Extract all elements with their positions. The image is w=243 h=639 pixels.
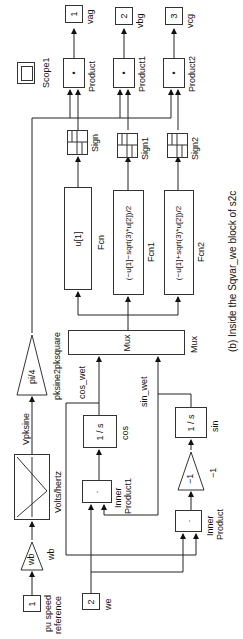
sign2-icon [168,134,187,157]
figure-caption: (b) Inside the Sqvar_we block of s2c [228,191,238,352]
inner-product1-label-line2: Product1 [124,478,133,514]
product2-label: Product2 [188,56,197,92]
cos-integrator-block[interactable]: 1 / s [83,415,117,448]
cos-integrator-label: cos [121,426,130,440]
sin-wet-signal-label: sin_wet [140,376,149,407]
sign-block[interactable] [67,130,88,155]
fcn2-label: Fcn2 [197,242,206,262]
volts-hertz-label: Volts/hertz [54,471,63,513]
fcn2-block[interactable]: (−u[1]+sqrt(3)*u[2])/2 [164,190,194,295]
fcn1-label: Fcn1 [147,242,156,262]
sign1-label: Sign1 [141,137,150,160]
inport-1-number: 1 [28,601,37,606]
product-label: Product [88,61,97,92]
inport-1[interactable]: 1 [23,595,41,612]
outport-1[interactable]: 1 [65,5,83,23]
outport-2[interactable]: 2 [115,7,133,25]
wb-gain-value: wb [27,553,36,565]
inner-product-label-line1: Inner [206,515,215,536]
sign1-block[interactable] [117,133,138,158]
product1-symbol: • [120,71,129,74]
outport-2-number: 2 [120,13,129,18]
inport-2[interactable]: 2 [82,593,100,610]
inner-product-symbol: · [184,520,193,523]
outport-2-label: vbg [136,13,145,28]
sin-integrator-label: sin [211,420,220,432]
cos-integrator-num: 1 [95,435,105,440]
fcn-label: Fcn [97,235,106,250]
product2-symbol: • [170,71,179,74]
fcn1-block[interactable]: (−u[1]−sqrt(3)*u[2])/2 [113,190,144,295]
inner-product-label-line2: Product [216,509,225,540]
inner-product1-symbol: · [93,490,102,493]
outport-3-label: vcg [186,14,195,28]
sin-integrator-num: 1 [186,426,196,431]
product-symbol: • [70,71,79,74]
pi4-gain-block[interactable] [16,334,48,396]
volts-hertz-block[interactable] [14,454,50,520]
inner-product-block[interactable]: · [175,510,202,532]
product-block[interactable]: • [63,58,85,88]
sign2-label: Sign2 [191,137,200,160]
outport-1-number: 1 [70,11,79,16]
neg-one-gain-value: −1 [186,474,195,484]
product2-block[interactable]: • [163,58,185,88]
sin-integrator-tf: 1 / s [187,414,196,431]
sin-integrator-den: s [186,414,196,419]
scope-screen-icon [21,66,33,81]
pi4-gain-value: pi/4 [28,369,37,384]
inner-product1-block[interactable]: · [82,480,112,503]
inport-2-label: we [104,598,113,610]
sign2-block[interactable] [167,133,188,158]
outport-1-label: vag [86,9,95,24]
inport-1-label-line1: pu speed [44,595,53,632]
sign-icon [68,131,87,154]
inport-1-label-line2: reference [54,596,63,634]
product1-label: Product1 [138,56,147,92]
fcn1-expression: (−u[1]−sqrt(3)*u[2])/2 [125,205,133,279]
neg-one-gain-label: −1 [209,468,218,478]
scope1-block[interactable] [17,62,35,84]
sign-label: Sign [91,134,100,152]
fcn2-expression: (−u[1]+sqrt(3)*u[2])/2 [175,205,183,279]
sin-integrator-block[interactable]: 1 / s [175,407,207,438]
fcn-block[interactable]: u[1] [64,187,92,290]
cos-integrator-den: s [95,423,105,428]
cos-integrator-tf: 1 / s [96,423,105,440]
mux-inner-label: Mux [122,334,131,351]
sign1-icon [118,134,137,157]
outport-3[interactable]: 3 [165,7,183,25]
mux-label: Mux [190,336,199,353]
pi4-gain-label: pksine2pksquare [53,332,62,400]
v-shape-lookup-icon [15,455,49,519]
mux-block[interactable]: Mux [68,330,185,355]
wb-gain-label: wb [47,548,56,560]
vpksine-signal-label: Vpksine [22,413,31,445]
product1-block[interactable]: • [113,58,135,88]
inport-2-number: 2 [87,599,96,604]
outport-3-number: 3 [170,13,179,18]
neg-one-gain-block[interactable] [177,451,205,491]
cos-wet-signal-label: cos_wet [78,366,87,399]
scope1-label: Scope1 [42,57,51,88]
fcn-expression: u[1] [74,231,83,246]
inner-product1-label-line1: Inner [114,487,123,508]
